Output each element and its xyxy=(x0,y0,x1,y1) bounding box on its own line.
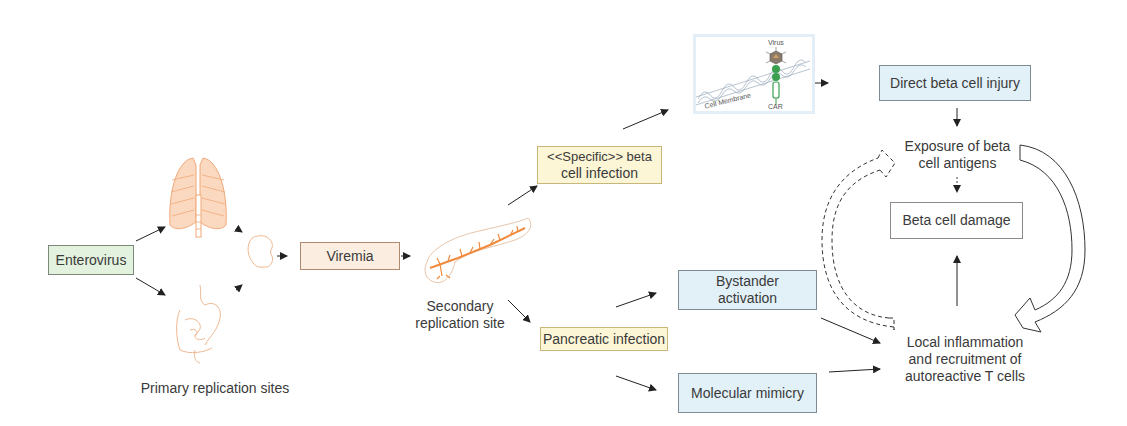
inflammation-label: Local inflammation and recruitment of au… xyxy=(880,334,1050,385)
inflammation-line-3: autoreactive T cells xyxy=(880,368,1050,385)
mimicry-node: Molecular mimicry xyxy=(678,373,817,413)
viremia-label: Viremia xyxy=(326,248,373,265)
exposure-line-2: cell antigens xyxy=(885,155,1030,172)
exposure-label: Exposure of beta cell antigens xyxy=(885,138,1030,172)
primary-sites-label: Primary replication sites xyxy=(130,380,300,397)
lungs-icon xyxy=(170,158,227,237)
virus-label: Virus xyxy=(768,39,784,46)
bystander-line-2: activation xyxy=(718,290,777,307)
car-label: CAR xyxy=(768,103,783,110)
enterovirus-node: Enterovirus xyxy=(48,245,134,275)
pancreatic-label: Pancreatic infection xyxy=(543,331,665,348)
secondary-site-label: Secondary replication site xyxy=(400,298,520,332)
blood-vessel-icon xyxy=(248,236,272,268)
bystander-line-1: Bystander xyxy=(716,273,779,290)
pancreas-icon xyxy=(425,218,531,283)
viremia-node: Viremia xyxy=(300,242,400,270)
secondary-line-1: Secondary xyxy=(400,298,520,315)
pancreatic-infection-node: Pancreatic infection xyxy=(540,327,668,351)
solid-feedback-arrow xyxy=(1015,145,1085,332)
specific-infection-node: <<Specific>> beta cell infection xyxy=(537,146,662,184)
enterovirus-label: Enterovirus xyxy=(56,252,127,269)
direct-injury-label: Direct beta cell injury xyxy=(890,75,1020,92)
intestines-icon xyxy=(177,285,221,363)
beta-damage-label: Beta cell damage xyxy=(902,212,1010,229)
beta-damage-node: Beta cell damage xyxy=(890,202,1023,239)
secondary-line-2: replication site xyxy=(400,315,520,332)
dashed-feedback-arrow xyxy=(822,150,895,330)
inflammation-line-2: and recruitment of xyxy=(880,351,1050,368)
specific-line-2: cell infection xyxy=(561,165,638,182)
exposure-line-1: Exposure of beta xyxy=(885,138,1030,155)
mimicry-label: Molecular mimicry xyxy=(691,385,804,402)
virus-receptor-inset: Virus Cell Membrane CAR xyxy=(693,34,815,114)
direct-injury-node: Direct beta cell injury xyxy=(879,65,1031,101)
specific-line-1: <<Specific>> beta xyxy=(547,148,652,165)
bystander-node: Bystander activation xyxy=(678,270,817,310)
inflammation-line-1: Local inflammation xyxy=(880,334,1050,351)
